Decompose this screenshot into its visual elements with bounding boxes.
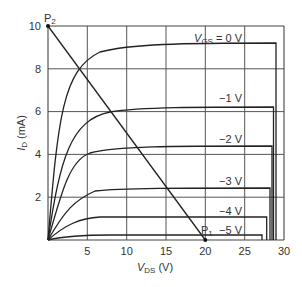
svg-text:−4 V: −4 V [219,205,243,217]
svg-text:VGS = 0 V: VGS = 0 V [194,32,243,46]
svg-text:15: 15 [160,245,172,257]
grid [48,26,284,240]
y-tick-labels: 2 4 6 8 10 [29,20,41,203]
svg-text:8: 8 [35,63,41,75]
curve-labels: VGS = 0 V −1 V −2 V −3 V −4 V −5 V [194,32,243,236]
svg-text:−5 V: −5 V [219,224,243,236]
x-axis-title: VDS (V) [137,261,173,275]
svg-text:4: 4 [35,148,41,160]
svg-text:25: 25 [239,245,251,257]
svg-text:10: 10 [121,245,133,257]
svg-text:−2 V: −2 V [219,133,243,145]
point-p1 [203,238,207,242]
svg-text:−1 V: −1 V [219,92,243,104]
point-p2 [46,24,50,28]
p2-label: P2 [44,12,56,26]
svg-text:10: 10 [29,20,41,32]
svg-text:30: 30 [278,245,290,257]
y-axis-title: ID (mA) [15,115,29,151]
x-tick-labels: 5 10 15 20 25 30 [84,245,290,257]
jfet-drain-characteristics-chart: 5 10 15 20 25 30 2 4 6 8 10 VDS (V) ID (… [0,0,302,287]
svg-text:6: 6 [35,105,41,117]
svg-text:5: 5 [84,245,90,257]
p1-label: P1 [201,224,213,238]
svg-text:2: 2 [35,191,41,203]
svg-text:20: 20 [199,245,211,257]
svg-text:−3 V: −3 V [219,175,243,187]
